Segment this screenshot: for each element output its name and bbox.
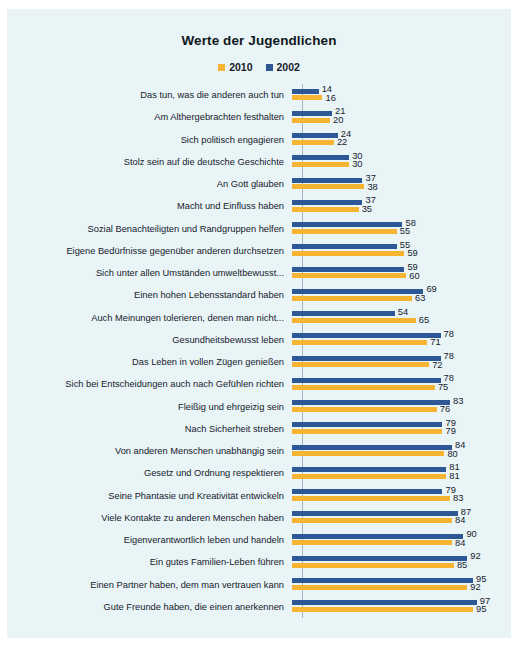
bar-group: 9795: [292, 596, 501, 618]
bar-row: Sozial Benachteiligten und Randgruppen h…: [17, 218, 501, 240]
bar-value-2010: 83: [453, 494, 463, 503]
bar-value-2002: 90: [466, 530, 476, 539]
category-label: Fleißig und ehrgeizig sein: [17, 402, 292, 412]
category-label: Gesundheitsbewusst leben: [17, 335, 292, 345]
bar-row: Einen hohen Lebensstandard haben6963: [17, 284, 501, 306]
bar-2010: [292, 251, 404, 256]
bar-2010: [292, 273, 406, 278]
category-label: Ein gutes Familien-Leben führen: [17, 557, 292, 567]
bar-2010: [292, 474, 446, 479]
bar-value-2010: 79: [445, 427, 455, 436]
bar-group: 3030: [292, 151, 501, 173]
bar-2010: [292, 429, 442, 434]
bar-2002: [292, 289, 423, 294]
bar-2010: [292, 340, 427, 345]
bar-2010: [292, 296, 412, 301]
bar-group: 9084: [292, 529, 501, 551]
bar-group: 8376: [292, 396, 501, 418]
bar-2002: [292, 133, 338, 138]
bar-value-2010: 85: [457, 561, 467, 570]
bar-group: 5855: [292, 218, 501, 240]
bar-value-2010: 35: [362, 205, 372, 214]
category-label: Sich unter allen Umständen umweltbewusst…: [17, 268, 292, 278]
category-label: Auch Meinungen tolerieren, denen man nic…: [17, 313, 292, 323]
category-label: An Gott glauben: [17, 179, 292, 189]
bar-row: An Gott glauben3738: [17, 173, 501, 195]
legend-swatch-2010: [218, 64, 225, 71]
bar-2010: [292, 362, 429, 367]
bar-row: Von anderen Menschen unabhängig sein8480: [17, 440, 501, 462]
bar-group: 8181: [292, 462, 501, 484]
bar-group: 7983: [292, 485, 501, 507]
bar-2002: [292, 600, 477, 605]
bar-group: 1416: [292, 84, 501, 106]
category-label: Stolz sein auf die deutsche Geschichte: [17, 157, 292, 167]
bar-row: Das Leben in vollen Zügen genießen7872: [17, 351, 501, 373]
bar-2002: [292, 267, 404, 272]
bar-group: 7979: [292, 418, 501, 440]
bar-row: Gesetz und Ordnung respektieren8181: [17, 462, 501, 484]
bar-2010: [292, 162, 349, 167]
bar-2010: [292, 318, 416, 323]
bar-row: Ein gutes Familien-Leben führen9285: [17, 551, 501, 573]
bar-group: 2120: [292, 106, 501, 128]
bar-value-2010: 84: [455, 539, 465, 548]
bar-group: 7875: [292, 373, 501, 395]
bar-row: Eigenverantwortlich leben und handeln908…: [17, 529, 501, 551]
bar-row: Viele Kontakte zu anderen Menschen haben…: [17, 507, 501, 529]
bar-value-2002: 54: [398, 308, 408, 317]
legend-item-2002: 2002: [266, 61, 300, 73]
bar-2002: [292, 511, 458, 516]
page-title: Werte der Jugendlichen: [7, 33, 511, 48]
bar-value-2010: 22: [337, 138, 347, 147]
bar-2002: [292, 89, 319, 94]
bar-row: Sich politisch engagieren2422: [17, 129, 501, 151]
bar-row: Fleißig und ehrgeizig sein8376: [17, 396, 501, 418]
bar-2010: [292, 407, 437, 412]
bar-2002: [292, 178, 362, 183]
bar-2002: [292, 378, 441, 383]
bar-2010: [292, 140, 334, 145]
bar-group: 2422: [292, 129, 501, 151]
bar-row: Seine Phantasie und Kreativität entwicke…: [17, 485, 501, 507]
bar-2010: [292, 518, 452, 523]
legend-label-2002: 2002: [277, 61, 300, 73]
bar-2010: [292, 118, 330, 123]
bar-value-2010: 76: [440, 405, 450, 414]
category-label: Das Leben in vollen Zügen genießen: [17, 357, 292, 367]
category-label: Gute Freunde haben, die einen anerkennen: [17, 602, 292, 612]
bar-value-2010: 95: [476, 605, 486, 614]
bar-group: 5559: [292, 240, 501, 262]
bar-value-2010: 80: [447, 450, 457, 459]
bar-2002: [292, 155, 349, 160]
bar-row: Sich unter allen Umständen umweltbewusst…: [17, 262, 501, 284]
bar-2010: [292, 184, 364, 189]
legend-label-2010: 2010: [229, 61, 252, 73]
legend-swatch-2002: [266, 64, 273, 71]
bar-value-2010: 60: [409, 272, 419, 281]
bar-row: Sich bei Entscheidungen auch nach Gefühl…: [17, 373, 501, 395]
bar-2010: [292, 607, 473, 612]
bar-value-2010: 75: [438, 383, 448, 392]
bar-group: 5960: [292, 262, 501, 284]
bar-2002: [292, 400, 450, 405]
bar-group: 8784: [292, 507, 501, 529]
bar-row: Einen Partner haben, dem man vertrauen k…: [17, 574, 501, 596]
bar-2002: [292, 445, 452, 450]
bar-2002: [292, 422, 442, 427]
chart-legend: 2010 2002: [7, 61, 511, 73]
bar-group: 9285: [292, 551, 501, 573]
category-label: Einen hohen Lebensstandard haben: [17, 290, 292, 300]
bar-2010: [292, 496, 450, 501]
bar-2002: [292, 534, 463, 539]
bar-value-2010: 16: [325, 94, 335, 103]
category-label: Sich bei Entscheidungen auch nach Gefühl…: [17, 379, 292, 389]
bar-2002: [292, 222, 402, 227]
bar-2010: [292, 207, 359, 212]
bar-row: Auch Meinungen tolerieren, denen man nic…: [17, 307, 501, 329]
category-label: Das tun, was die anderen auch tun: [17, 90, 292, 100]
category-label: Einen Partner haben, dem man vertrauen k…: [17, 580, 292, 590]
bar-2010: [292, 563, 454, 568]
category-label: Seine Phantasie und Kreativität entwicke…: [17, 491, 292, 501]
bar-row: Am Althergebrachten festhalten2120: [17, 106, 501, 128]
